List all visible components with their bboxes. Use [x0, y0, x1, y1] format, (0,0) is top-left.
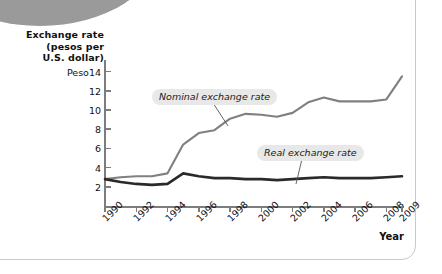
- callout-leader-line: [213, 103, 228, 126]
- y-tick-mark: [105, 71, 111, 73]
- chart-figure: Exchange rate (pesos per U.S. dollar) 24…: [0, 0, 442, 274]
- callout-leader-line: [296, 159, 302, 184]
- y-tick-mark: [105, 167, 111, 169]
- chart-plot-lines: [0, 0, 442, 274]
- y-tick-mark: [105, 109, 111, 111]
- y-tick-mark: [105, 90, 111, 92]
- y-tick-mark: [105, 148, 111, 150]
- y-tick-mark: [105, 128, 111, 130]
- nominal-exchange-rate-callout: Nominal exchange rate: [152, 89, 277, 105]
- real-exchange-rate-callout: Real exchange rate: [257, 145, 364, 161]
- series-line-real-exchange-rate: [105, 173, 402, 185]
- y-tick-mark: [105, 186, 111, 188]
- x-axis-title: Year: [379, 231, 404, 242]
